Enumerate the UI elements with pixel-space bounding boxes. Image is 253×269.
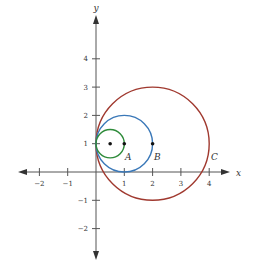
label-c: C bbox=[211, 152, 218, 162]
y-axis-label: y bbox=[92, 3, 99, 13]
coordinate-diagram: −2 −1 1 2 3 4 x 4 3 2 1 −1 −2 y A B C bbox=[0, 0, 253, 269]
x-tick-label: 1 bbox=[122, 180, 126, 188]
y-tick-label: 1 bbox=[84, 140, 88, 148]
x-tick-label: −1 bbox=[63, 180, 73, 188]
point-a bbox=[123, 142, 127, 146]
y-tick-label: −2 bbox=[78, 225, 88, 233]
y-axis-down-arrow-icon bbox=[93, 251, 99, 260]
x-tick-label: −2 bbox=[34, 180, 44, 188]
x-tick-label: 2 bbox=[150, 180, 154, 188]
y-tick-label: 3 bbox=[84, 84, 88, 92]
x-tick-label: 4 bbox=[207, 180, 212, 188]
x-tick-label: 3 bbox=[179, 180, 183, 188]
x-axis-right-arrow-icon bbox=[221, 169, 230, 175]
label-b: B bbox=[153, 152, 161, 162]
x-axis-label: x bbox=[236, 168, 241, 178]
x-axis-left-arrow-icon bbox=[18, 169, 27, 175]
point-b bbox=[151, 142, 155, 146]
y-tick-label: −1 bbox=[78, 197, 88, 205]
y-tick-label: 2 bbox=[84, 112, 88, 120]
label-a: A bbox=[124, 152, 132, 162]
y-axis-up-arrow-icon bbox=[93, 15, 99, 24]
y-tick-label: 4 bbox=[84, 55, 89, 63]
point-center-small bbox=[108, 142, 112, 146]
